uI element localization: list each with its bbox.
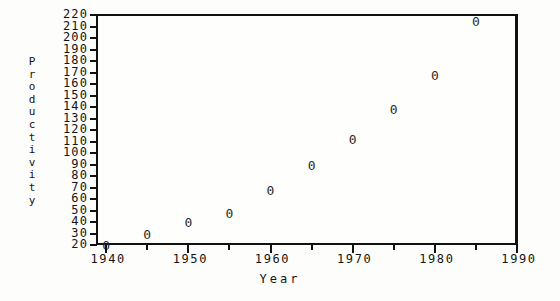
y-axis-tick-label: 160 — [63, 78, 88, 89]
y-axis-tick-label: 130 — [63, 113, 88, 124]
y-axis-tick-label: 180 — [63, 55, 88, 66]
y-axis-tick-label: 170 — [63, 67, 88, 78]
y-axis-tick-label: 150 — [63, 90, 88, 101]
y-axis-tick-label: 140 — [63, 101, 88, 112]
x-axis-minor-tick-mark — [393, 245, 395, 250]
x-axis-minor-tick-mark — [475, 245, 477, 250]
y-axis-tick-label: 100 — [63, 147, 88, 158]
y-axis-tick-mark — [90, 164, 97, 166]
y-axis-tick-mark — [90, 26, 97, 28]
data-point: 0 — [431, 68, 439, 81]
x-axis-tick-label: 1970 — [337, 252, 372, 266]
data-point: 0 — [226, 206, 234, 219]
y-axis-tick-mark — [90, 129, 97, 131]
x-axis-tick-label: 1950 — [173, 252, 208, 266]
y-axis-tick-mark — [90, 118, 97, 120]
y-axis-tick-mark — [90, 14, 97, 16]
data-point: 0 — [390, 103, 398, 116]
x-axis-tick-label: 1940 — [91, 252, 126, 266]
y-axis-tick-label: 40 — [71, 216, 88, 227]
data-point: 0 — [184, 216, 192, 229]
x-axis-tick-label: 1980 — [419, 252, 454, 266]
x-axis-tick-label: 1960 — [255, 252, 290, 266]
x-axis-minor-tick-mark — [146, 245, 148, 250]
y-axis-title: P r o d u c t i v i t y — [24, 56, 40, 207]
y-axis-tick-mark — [90, 198, 97, 200]
y-axis-tick-label: 80 — [71, 170, 88, 181]
y-axis-tick-mark — [90, 210, 97, 212]
y-axis-tick-mark — [90, 221, 97, 223]
y-axis-tick-mark — [90, 49, 97, 51]
y-axis-tick-label: 20 — [71, 239, 88, 250]
y-axis-tick-label: 90 — [71, 159, 88, 170]
scatter-plot-figure: P r o d u c t i v i t y 2030405060708090… — [0, 0, 560, 301]
data-point: 0 — [349, 133, 357, 146]
x-axis-tick-label: 1990 — [501, 252, 536, 266]
y-axis-tick-label: 200 — [63, 32, 88, 43]
y-axis-tick-label: 210 — [63, 21, 88, 32]
y-axis-tick-mark — [90, 152, 97, 154]
y-axis-tick-label: 30 — [71, 228, 88, 239]
y-axis-tick-label: 120 — [63, 124, 88, 135]
y-axis-tick-mark — [90, 83, 97, 85]
x-axis-minor-tick-mark — [311, 245, 313, 250]
y-axis-tick-label: 70 — [71, 182, 88, 193]
x-axis-title: Year — [0, 272, 560, 286]
y-axis-tick-mark — [90, 187, 97, 189]
y-axis-tick-label: 110 — [63, 136, 88, 147]
y-axis-tick-mark — [90, 233, 97, 235]
data-point: 0 — [143, 227, 151, 240]
data-point: 0 — [472, 14, 480, 27]
data-point: 0 — [308, 158, 316, 171]
y-axis-tick-mark — [90, 141, 97, 143]
y-axis-tick-mark — [90, 95, 97, 97]
y-axis-tick-label: 190 — [63, 44, 88, 55]
y-axis-tick-labels: 2030405060708090100110120130140150160170… — [42, 0, 92, 301]
y-axis-tick-mark — [90, 72, 97, 74]
y-axis-tick-mark — [90, 60, 97, 62]
data-point: 0 — [267, 183, 275, 196]
y-axis-tick-label: 60 — [71, 193, 88, 204]
plot-area — [96, 14, 518, 245]
y-axis-tick-mark — [90, 106, 97, 108]
y-axis-tick-label: 50 — [71, 205, 88, 216]
y-axis-tick-label: 220 — [63, 9, 88, 20]
y-axis-tick-mark — [90, 175, 97, 177]
y-axis-tick-mark — [90, 244, 97, 246]
y-axis-tick-mark — [90, 37, 97, 39]
x-axis-minor-tick-mark — [228, 245, 230, 250]
